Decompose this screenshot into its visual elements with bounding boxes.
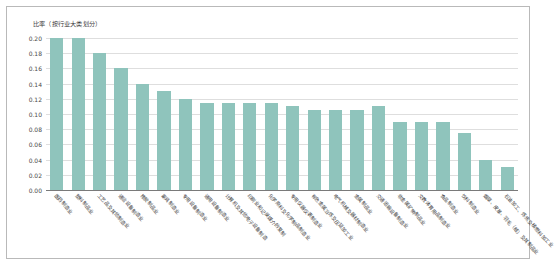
bar-slot: 化学原料及化学制品制造业: [261, 38, 282, 190]
y-axis-tick-label: 0.16: [29, 65, 42, 72]
bar-slot: 石油加工、炼焦及核燃料加工业: [497, 38, 518, 190]
bar-slot: 专用仪器仪表制造业: [282, 38, 303, 190]
x-axis-tick-label: 家具制造业: [160, 193, 180, 215]
y-axis-tick-label: 0.08: [29, 126, 42, 133]
bar: [50, 38, 63, 190]
bar-slot: 专用设备制造业: [175, 38, 196, 190]
bar-slot: 医药制造业: [46, 38, 67, 190]
bar: [157, 91, 170, 190]
bar: [372, 106, 385, 190]
bar-slot: 金属制品业: [346, 38, 367, 190]
bar: [286, 106, 299, 190]
y-axis-tick-label: 0.02: [29, 171, 42, 178]
bar-slot: 通信设备制造业: [110, 38, 131, 190]
x-axis-tick-label: 计算机及其他电子设备制造: [225, 193, 269, 241]
bar-slot: 交通运输设备制造业: [368, 38, 389, 190]
x-axis-tick-label: 食品制造业: [439, 193, 459, 215]
plot-area: 0.200.180.160.140.120.100.080.060.040.02…: [46, 38, 518, 190]
y-axis-tick-label: 0.20: [29, 35, 42, 42]
x-axis-tick-label: 橡胶制品业: [139, 193, 159, 215]
bar: [308, 110, 321, 190]
bar: [479, 160, 492, 190]
bar: [114, 68, 127, 190]
bar-slot: 橡胶制品业: [132, 38, 153, 190]
bar-slot: 有色金属冶炼及压延加工业: [303, 38, 324, 190]
bar: [265, 103, 278, 190]
bar: [415, 122, 428, 190]
bar-slot: 工艺品及其他制造业: [89, 38, 110, 190]
bar: [136, 84, 149, 190]
x-axis-tick-label: 饮料制造业: [461, 193, 481, 215]
bar-slot: 家具制造业: [153, 38, 174, 190]
y-axis-tick-label: 0.00: [29, 187, 42, 194]
bar: [350, 110, 363, 190]
bar: [179, 99, 192, 190]
x-axis-tick-label: 印刷业和记录媒介的复制: [246, 193, 287, 237]
bar-slot: 饮料制造业: [454, 38, 475, 190]
bar-series: 医药制造业塑料制品业工艺品及其他制造业通信设备制造业橡胶制品业家具制造业专用设备…: [46, 38, 518, 190]
bar: [200, 103, 213, 190]
bar: [222, 103, 235, 190]
x-axis-line: 0.00: [46, 190, 518, 191]
x-axis-tick-label: 医药制造业: [53, 193, 73, 215]
bar: [458, 133, 471, 190]
bar-slot: 通用设备制造业: [196, 38, 217, 190]
y-axis-tick-label: 0.18: [29, 50, 42, 57]
chart-frame: 比率（按行业大类划分） 0.200.180.160.140.120.100.08…: [6, 6, 530, 259]
x-axis-tick-label: 有色金属冶炼及压延加工业: [310, 193, 354, 241]
x-axis-tick-label: 塑料制品业: [74, 193, 94, 215]
bar: [329, 110, 342, 190]
chart-title: 比率（按行业大类划分）: [33, 19, 101, 28]
bar-slot: 计算机及其他电子设备制造: [218, 38, 239, 190]
y-axis-tick-label: 0.12: [29, 95, 42, 102]
y-axis-tick-label: 0.10: [29, 111, 42, 118]
bar-slot: 文教体育用品制造业: [411, 38, 432, 190]
x-axis-tick-label: 化学原料及化学制品制造业: [268, 193, 312, 241]
y-axis-tick-label: 0.14: [29, 80, 42, 87]
bar: [436, 122, 449, 190]
bar-slot: 电气机械及器材制造业: [325, 38, 346, 190]
bar-slot: 烟草、皮革、羽毛（绒）及其制品业: [475, 38, 496, 190]
bar-slot: 食品制造业: [432, 38, 453, 190]
y-axis-tick-label: 0.04: [29, 156, 42, 163]
bar: [243, 103, 256, 190]
bar: [93, 53, 106, 190]
bar-slot: 印刷业和记录媒介的复制: [239, 38, 260, 190]
y-axis-tick-label: 0.06: [29, 141, 42, 148]
bar-slot: 塑料制品业: [67, 38, 88, 190]
x-axis-tick-label: 金属制品业: [353, 193, 373, 215]
bar: [393, 122, 406, 190]
bar: [72, 38, 85, 190]
bar-slot: 非金属矿物制品业: [389, 38, 410, 190]
bar: [501, 167, 514, 190]
